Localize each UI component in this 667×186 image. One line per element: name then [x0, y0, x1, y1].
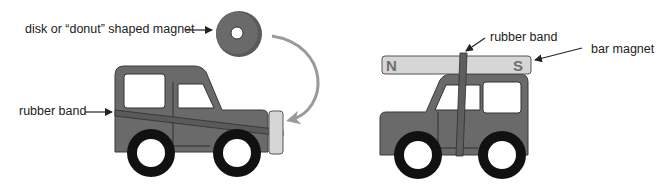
bar-magnet-label: bar magnet: [591, 42, 654, 56]
pole-s: S: [513, 57, 523, 74]
right-jeep: N S: [380, 53, 531, 179]
disk-magnet-label: disk or “donut” shaped magnet: [25, 22, 195, 36]
bar-magnet: [382, 56, 531, 74]
left-jeep: [115, 66, 283, 177]
right-rubber-band-label: rubber band: [490, 30, 557, 44]
right-band-label-arrow: [466, 38, 485, 51]
curved-arrow: [272, 36, 318, 120]
bar-magnet-label-arrow: [535, 48, 582, 60]
pole-n: N: [386, 57, 397, 74]
left-rubber-band-label: rubber band: [19, 104, 86, 118]
disk-magnet: [216, 11, 262, 57]
